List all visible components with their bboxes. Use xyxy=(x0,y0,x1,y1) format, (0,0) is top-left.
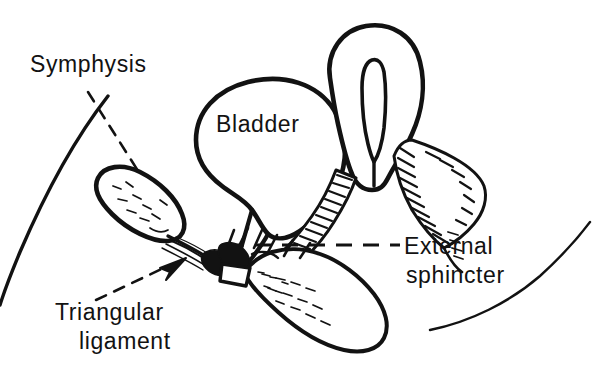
label-triangular-ligament: Triangular ligament xyxy=(55,298,171,356)
label-triangular-ligament-line2: ligament xyxy=(55,327,171,356)
pubic-symphysis xyxy=(96,167,184,241)
label-symphysis: Symphysis xyxy=(30,50,147,79)
label-bladder: Bladder xyxy=(216,110,299,139)
prostate xyxy=(244,249,387,351)
bladder xyxy=(196,79,345,270)
label-triangular-ligament-line1: Triangular xyxy=(55,299,164,325)
anatomy-figure: Symphysis Bladder External sphincter Tri… xyxy=(0,0,612,384)
triangular-ligament-leader xyxy=(96,258,186,300)
label-external-sphincter-line2: sphincter xyxy=(404,261,505,290)
label-external-sphincter: External sphincter xyxy=(404,232,505,290)
label-external-sphincter-line1: External xyxy=(404,233,493,259)
